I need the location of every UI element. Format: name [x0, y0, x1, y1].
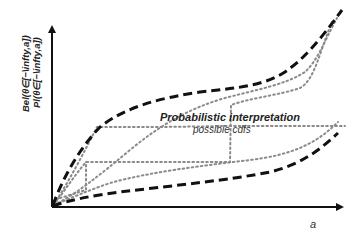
lower-bound-belief: [53, 133, 338, 206]
cdf-curve-1: [54, 126, 345, 204]
annotation-subtitle: possible cdfs: [193, 124, 251, 135]
x-axis-label: a: [310, 218, 316, 230]
annotation-title: Probabilistic interpretation: [160, 111, 300, 123]
